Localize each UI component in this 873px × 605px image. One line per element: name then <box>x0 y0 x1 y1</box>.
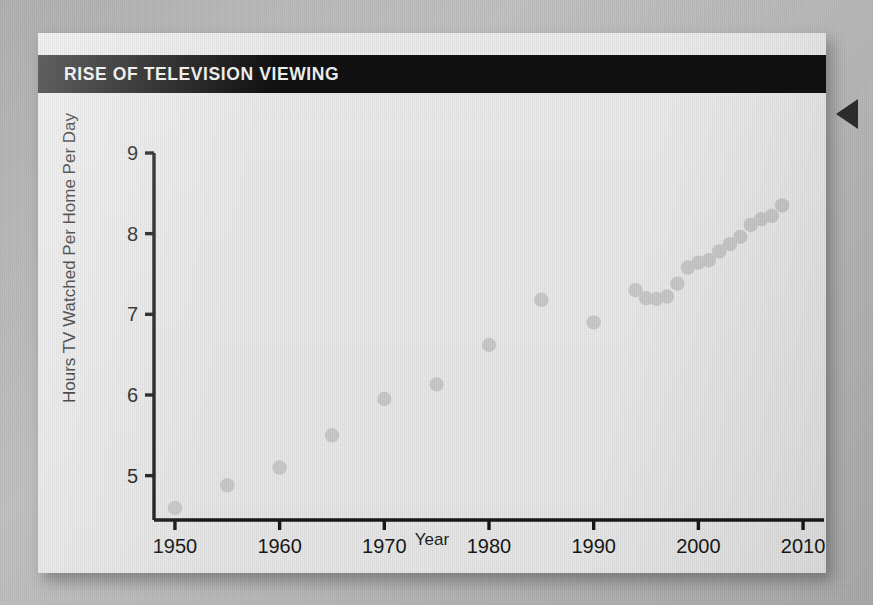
y-tick-label: 6 <box>127 384 138 406</box>
chart-title: RISE OF TELEVISION VIEWING <box>38 64 339 85</box>
figure-card: RISE OF TELEVISION VIEWING Hours TV Watc… <box>38 33 826 573</box>
data-point <box>168 501 182 515</box>
data-point <box>429 377 443 391</box>
x-tick-label: 1970 <box>362 535 407 557</box>
plot-area: Hours TV Watched Per Home Per Day Year 5… <box>38 93 826 573</box>
x-tick-label: 1980 <box>467 535 512 557</box>
x-tick-label: 2010 <box>781 535 826 557</box>
data-point <box>733 230 747 244</box>
axis-lines <box>154 153 824 520</box>
data-point <box>775 198 789 212</box>
data-point <box>377 392 391 406</box>
scatter-plot-svg: 56789 1950196019701980199020002010 <box>38 93 826 573</box>
chart-title-band: RISE OF TELEVISION VIEWING <box>38 55 826 93</box>
y-tick-label: 7 <box>127 303 138 325</box>
y-tick-label: 9 <box>127 142 138 164</box>
data-point <box>764 209 778 223</box>
x-tick-label: 1990 <box>571 535 616 557</box>
data-point <box>220 478 234 492</box>
x-tick-label: 2000 <box>676 535 721 557</box>
data-point <box>660 289 674 303</box>
data-point <box>670 276 684 290</box>
x-tick-label: 1950 <box>153 535 198 557</box>
left-pointing-triangle-icon <box>836 99 858 129</box>
data-point <box>325 428 339 442</box>
x-tick-label: 1960 <box>257 535 302 557</box>
data-point <box>534 293 548 307</box>
data-point <box>482 338 496 352</box>
data-point <box>586 315 600 329</box>
y-tick-label: 8 <box>127 223 138 245</box>
x-axis-ticks: 1950196019701980199020002010 <box>153 520 826 557</box>
data-point <box>272 460 286 474</box>
y-tick-label: 5 <box>127 465 138 487</box>
y-axis-ticks: 56789 <box>127 142 154 487</box>
data-point-group <box>168 198 790 515</box>
